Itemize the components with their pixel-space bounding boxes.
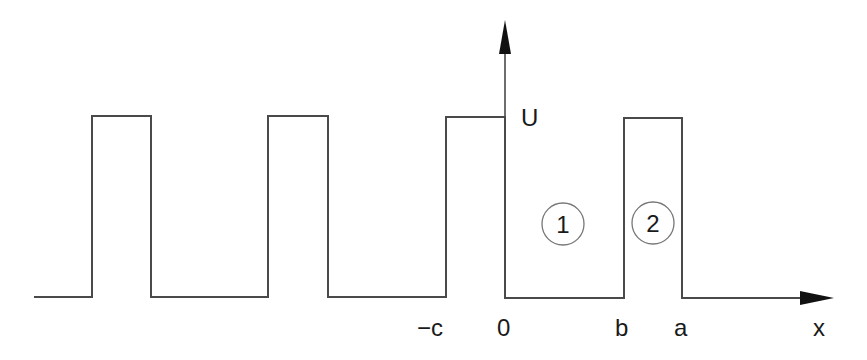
potential-diagram: U x −c 0 b a 1 2 (0, 0, 867, 360)
tick-label-a: a (674, 314, 688, 341)
tick-label-zero: 0 (497, 314, 510, 341)
tick-label-b: b (615, 314, 628, 341)
x-axis-label: x (813, 314, 825, 341)
x-axis-arrow-icon (800, 291, 834, 305)
y-axis-label: U (521, 104, 538, 131)
region-1-label: 1 (556, 211, 569, 238)
y-axis-arrow-icon (499, 20, 511, 54)
tick-label-minus-c: −c (417, 314, 443, 341)
region-2-label: 2 (646, 210, 659, 237)
potential-profile (34, 116, 806, 298)
